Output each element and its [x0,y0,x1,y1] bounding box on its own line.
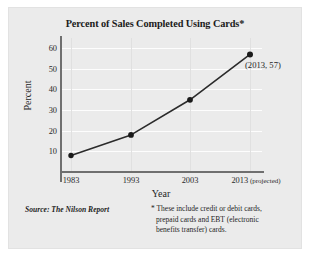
data-point-marker [68,153,73,158]
chart-figure: Percent of Sales Completed Using Cards* … [0,0,312,257]
x-tick-year: 2013 [231,176,248,185]
data-point-marker [128,132,134,138]
source-note: Source: The Nilson Report [25,205,109,214]
y-axis-title: Percent [22,66,33,126]
data-point-annotation: (2013, 57) [245,60,281,70]
y-tick-label: 40 [31,85,57,94]
footnote: * These include credit or debit cards, p… [151,204,296,236]
footnote-line: prepaid cards and EBT (electronic [151,215,296,226]
footnote-line: * These include credit or debit cards, [151,204,296,215]
y-tick-label: 20 [31,126,57,135]
x-tick-label: 1993 [123,176,140,185]
series-line [71,54,250,155]
data-point-marker [187,97,193,103]
data-point-marker [247,51,253,57]
y-tick-label: 60 [31,44,57,53]
data-series [60,38,262,172]
chart-panel: Percent of Sales Completed Using Cards* … [9,8,301,248]
y-tick-label: 10 [31,147,57,156]
x-tick-label: 2003 [182,176,199,185]
chart-title: Percent of Sales Completed Using Cards* [9,18,301,29]
footnote-line: benefits transfer) cards. [151,225,296,236]
x-tick-projected-note: (projected) [248,177,280,185]
x-axis-title: Year [60,188,262,199]
x-tick-label: 1983 [63,176,80,185]
x-tick-label-projected: 2013 (projected) [231,176,280,185]
y-tick-label: 30 [31,106,57,115]
y-tick-label: 50 [31,64,57,73]
